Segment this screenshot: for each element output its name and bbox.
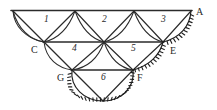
hachure-group [68,11,194,101]
E-to-F [133,42,163,70]
G-to-apex [72,70,103,101]
center-to-F [104,42,133,70]
vertex-label-E: E [170,46,176,56]
vertex-label-C: C [31,45,38,55]
triangulation-diagram: A C E G F 1 2 3 4 5 6 [0,0,217,110]
region-label-4: 4 [72,44,77,54]
region-label-1: 1 [44,15,49,25]
topmid2-to-center [104,11,134,42]
region-label-2: 2 [102,15,107,25]
topleft-to-C [13,11,44,42]
topmid1-to-center [75,11,104,42]
vertex-label-F: F [137,73,143,83]
vertex-label-A: A [196,7,203,17]
region-label-3: 3 [161,15,166,25]
vertex-label-G: G [57,73,64,83]
topmid2-to-E [134,11,163,42]
diagram-canvas [0,0,217,110]
region-label-6: 6 [101,73,106,83]
region-label-5: 5 [131,44,136,54]
arc-group [13,11,163,70]
